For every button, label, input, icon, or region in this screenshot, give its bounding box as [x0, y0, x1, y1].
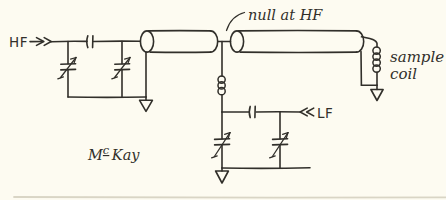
lf-ground-symbol — [216, 168, 229, 183]
variable-arrow-icon — [112, 58, 130, 79]
lf-coupling-capacitor — [249, 106, 255, 117]
hf-tuning-capacitor-2 — [112, 42, 130, 98]
author-signature-superscript-c: c — [103, 143, 110, 157]
schematic-canvas: HF null at HF sample coil LF McKay — [0, 0, 446, 200]
author-signature-kay: Kay — [111, 147, 140, 163]
coax-line-2 — [230, 31, 363, 53]
circuit-schematic-figure: HF null at HF sample coil LF McKay — [0, 0, 446, 200]
hf-ground-symbol — [140, 97, 153, 111]
sample-coil-label-line1: sample — [390, 48, 444, 66]
lf-tuning-capacitor-1 — [212, 112, 230, 168]
coax-line-1 — [140, 31, 217, 53]
hf-bottom-rail — [68, 52, 146, 97]
author-signature-m: M — [87, 147, 104, 163]
sample-ground-symbol — [371, 85, 383, 100]
hf-top-wire — [51, 41, 140, 42]
lf-tuning-capacitor-2 — [270, 112, 288, 168]
variable-arrow-icon — [58, 58, 76, 79]
hf-tuning-capacitor-1 — [58, 42, 76, 98]
hf-input-arrow-icon — [30, 38, 51, 46]
center-tap-inductor — [218, 42, 225, 113]
null-pointer-arrow-icon — [227, 13, 245, 31]
lf-bottom-rail — [222, 168, 310, 169]
null-annotation-label: null at HF — [248, 7, 323, 23]
lf-input-label: LF — [317, 105, 333, 121]
author-signature: McKay — [87, 143, 140, 163]
hf-input-label: HF — [9, 34, 28, 50]
scan-edge-line — [14, 197, 446, 198]
lf-input-arrow-icon — [300, 108, 314, 116]
sample-coil-label-line2: coil — [390, 65, 417, 83]
